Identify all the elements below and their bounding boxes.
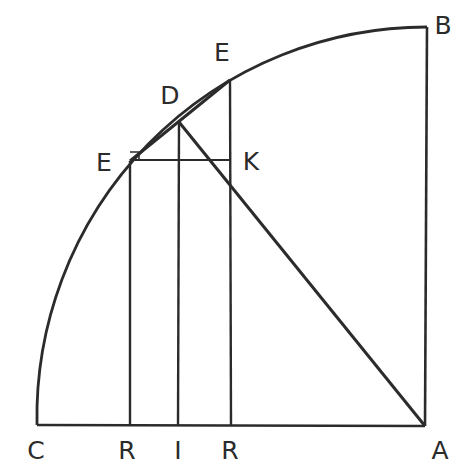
vertex-label-b: B (434, 13, 451, 38)
vertex-label-a: A (431, 438, 448, 463)
vertex-label-i: I (174, 438, 181, 463)
geometry-figure: C R I R A B E D E K (0, 0, 468, 471)
vertex-label-e-lower: E (96, 150, 112, 175)
vertex-label-c: C (27, 438, 44, 463)
vertex-label-d: D (160, 83, 179, 108)
ordinate-i (178, 122, 179, 425)
right-edge-segment-ab (425, 27, 427, 426)
vertex-label-r-left: R (118, 438, 135, 463)
figure-canvas (0, 0, 468, 471)
vertex-label-r-right: R (221, 438, 238, 463)
vertex-label-e-upper: E (214, 40, 230, 65)
hypotenuse-d-to-a (179, 122, 425, 426)
ordinate-r-right (230, 80, 231, 425)
baseline-segment-ca (37, 425, 425, 426)
vertex-label-k: K (243, 149, 259, 174)
